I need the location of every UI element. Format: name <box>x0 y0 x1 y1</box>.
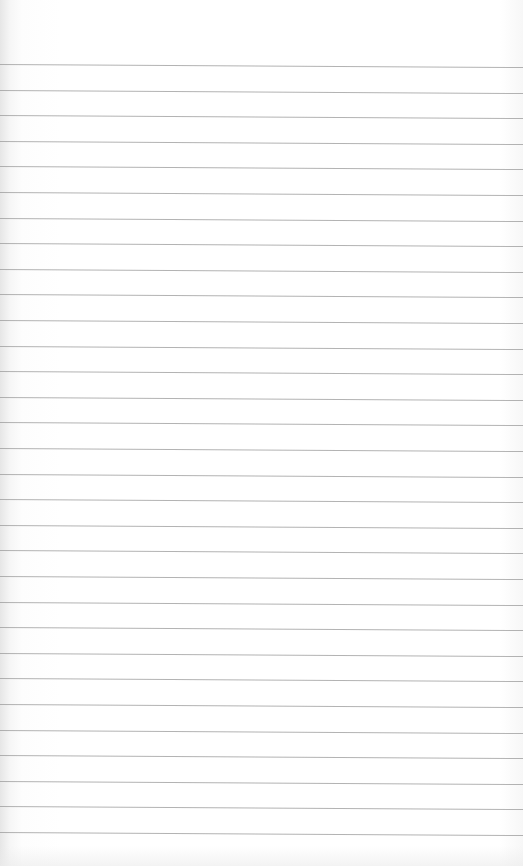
ruled-line <box>0 627 523 631</box>
ruled-line <box>0 269 523 273</box>
ruled-line <box>0 678 523 682</box>
ruled-line <box>0 730 523 734</box>
ruled-line <box>0 602 523 606</box>
ruled-line <box>0 525 523 529</box>
ruled-lines <box>0 0 523 866</box>
ruled-line <box>0 832 523 836</box>
bottom-edge-shadow <box>0 846 523 866</box>
ruled-line <box>0 422 523 426</box>
ruled-line <box>0 320 523 324</box>
ruled-line <box>0 704 523 708</box>
ruled-line <box>0 294 523 298</box>
ruled-line <box>0 806 523 810</box>
ruled-line <box>0 550 523 554</box>
ruled-line <box>0 448 523 452</box>
ruled-line <box>0 64 523 68</box>
ruled-line <box>0 397 523 401</box>
ruled-line <box>0 141 523 145</box>
ruled-line <box>0 576 523 580</box>
ruled-line <box>0 243 523 247</box>
ruled-line <box>0 166 523 170</box>
ruled-line <box>0 781 523 785</box>
ruled-line <box>0 192 523 196</box>
lined-paper-sheet <box>0 0 523 866</box>
ruled-line <box>0 499 523 503</box>
ruled-line <box>0 90 523 94</box>
ruled-line <box>0 653 523 657</box>
ruled-line <box>0 346 523 350</box>
ruled-line <box>0 474 523 478</box>
ruled-line <box>0 115 523 119</box>
ruled-line <box>0 371 523 375</box>
ruled-line <box>0 755 523 759</box>
ruled-line <box>0 218 523 222</box>
